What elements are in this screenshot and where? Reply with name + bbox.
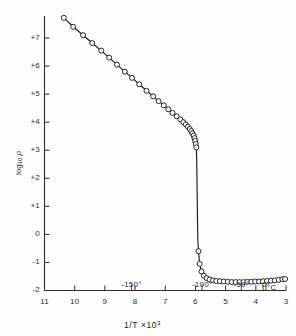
data-point [122,69,127,74]
data-point [130,75,135,80]
data-point [99,48,104,53]
y-tick-label: +3 [20,146,40,154]
y-axis-ticks [45,38,50,291]
data-point [161,103,166,108]
x-tick-label: 9 [93,298,117,306]
y-tick-label: +2 [20,174,40,182]
series-line [64,18,285,282]
x-tick-label: 6 [183,298,207,306]
y-tick-label: -2 [20,286,40,294]
data-point [196,249,201,254]
data-point [137,82,142,87]
data-point [90,41,95,46]
x-tick-label: 11 [33,298,57,306]
y-tick-label: +1 [20,202,40,210]
x-tick-label: 7 [153,298,177,306]
series-markers [61,15,287,284]
x-tick-label: 8 [123,298,147,306]
data-point [81,33,86,38]
data-point [114,62,119,67]
data-point [197,261,202,266]
data-point [71,24,76,29]
chart-figure: -2-10+1+2+3+4+5+6+7 11109876543 -150°-10… [0,0,296,336]
data-point [61,15,66,20]
x-tick-label: 3 [274,298,296,306]
x-tick-label: 10 [63,298,87,306]
temperature-axis-unit-label: t °C [262,283,277,292]
y-tick-label: +5 [20,90,40,98]
x-tick-label: 5 [214,298,238,306]
axes [45,16,287,291]
x-axis-label: 1/T ×103 [124,320,161,330]
temperature-tick-label: -100° [186,281,218,289]
y-axis-label: log10 ρ [14,151,23,175]
y-tick-label: -1 [20,258,40,266]
y-tick-label: +6 [20,62,40,70]
data-point [144,88,149,93]
data-point [194,145,199,150]
data-point [166,107,171,112]
temperature-tick-label: -150° [115,281,147,289]
y-tick-label: +7 [20,34,40,42]
data-point [283,277,288,282]
y-tick-label: +4 [20,118,40,126]
y-tick-label: 0 [20,230,40,238]
data-point [107,55,112,60]
x-tick-label: 4 [244,298,268,306]
data-point [156,99,161,104]
data-series [61,15,287,284]
data-point [151,94,156,99]
